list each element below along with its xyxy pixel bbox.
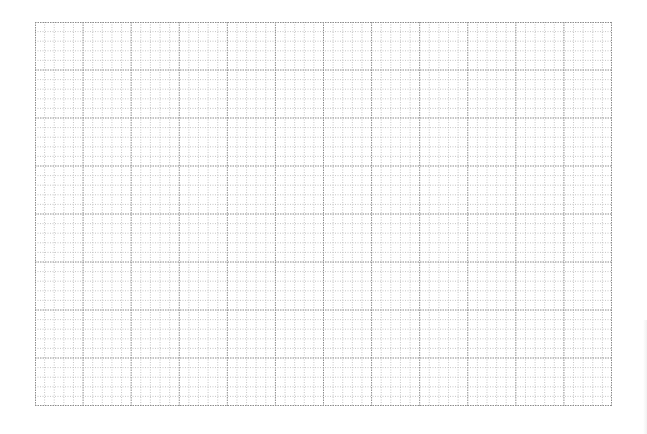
grid-lines	[35, 22, 612, 406]
graph-paper-page	[0, 0, 647, 434]
grid-paper	[35, 22, 612, 406]
edge-shadow	[643, 320, 647, 434]
